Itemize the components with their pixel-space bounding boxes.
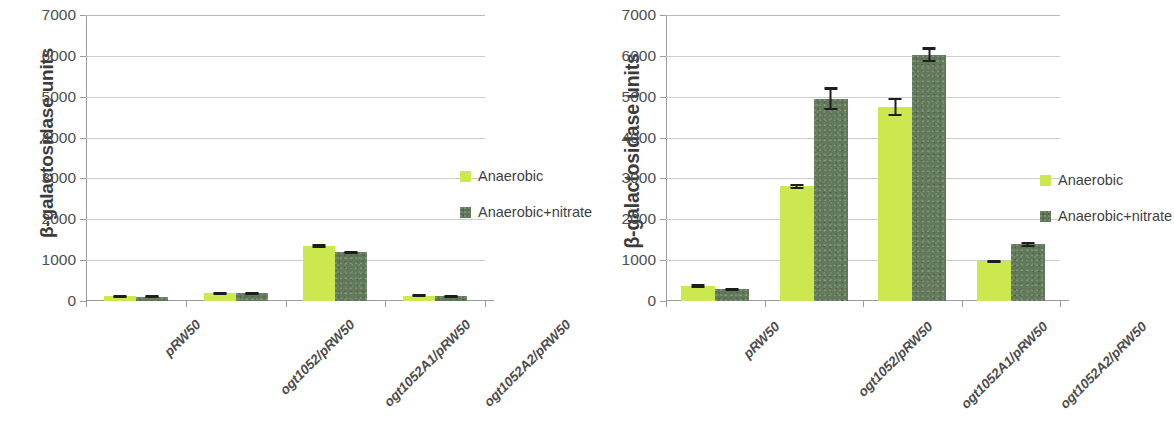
x-axis-tick xyxy=(962,301,963,307)
bar-group xyxy=(765,15,864,301)
error-bar xyxy=(213,292,226,295)
bar-anaerobic xyxy=(303,15,335,301)
error-bar xyxy=(824,87,837,110)
bar-anaerobic-nitrate xyxy=(715,15,749,301)
error-bar-cap-bottom xyxy=(726,289,739,291)
error-bar-cap-bottom xyxy=(923,60,936,63)
y-axis-tick-label: 4000 xyxy=(622,129,656,147)
bar-group xyxy=(385,15,485,301)
error-bar xyxy=(113,295,126,298)
legend-swatch-icon xyxy=(460,207,471,218)
error-bar xyxy=(987,260,1000,264)
y-axis-tick-label: 0 xyxy=(67,292,76,310)
x-axis-tick xyxy=(485,301,486,307)
x-axis-tick xyxy=(186,301,187,307)
legend-swatch-icon xyxy=(460,171,471,182)
x-axis-tick xyxy=(1060,301,1061,307)
error-bar-cap-bottom xyxy=(213,293,226,295)
bar-anaerobic xyxy=(681,15,715,301)
y-axis-tick-label: 6000 xyxy=(622,47,656,65)
error-bar-cap-bottom xyxy=(824,108,837,111)
error-bar xyxy=(145,295,158,298)
x-axis-tick-label: ogt1052A1/pRW50 xyxy=(958,319,1051,412)
legend-label: Anaerobic+nitrate xyxy=(478,204,592,220)
error-bar-cap-bottom xyxy=(790,187,803,189)
bar-group xyxy=(86,15,186,301)
bar-column xyxy=(335,252,367,301)
bar-column xyxy=(912,55,946,301)
x-axis-tick-label: ogt1052A2/pRW50 xyxy=(481,317,574,410)
bar-anaerobic xyxy=(878,15,912,301)
legend-item: Anaerobic+nitrate xyxy=(460,204,592,220)
error-bar-cap-bottom xyxy=(445,296,458,298)
error-bar-cap-bottom xyxy=(113,296,126,298)
legend-a: AnaerobicAnaerobic+nitrate xyxy=(460,168,592,220)
x-axis-tick xyxy=(666,301,667,307)
legend-item: Anaerobic xyxy=(460,168,592,184)
bar-column xyxy=(814,99,848,301)
legend-label: Anaerobic xyxy=(478,168,543,184)
y-axis-tick-label: 2000 xyxy=(42,210,76,228)
x-axis-tick-label: pRW50 xyxy=(161,317,203,359)
error-bar xyxy=(889,98,902,117)
y-axis-tick-label: 2000 xyxy=(622,210,656,228)
error-bar-cap-bottom xyxy=(413,295,426,297)
legend-label: Anaerobic xyxy=(1058,172,1123,188)
bar-anaerobic xyxy=(204,15,236,301)
plot-area-b: 01000200030004000500060007000pRW50ogt105… xyxy=(666,15,1060,301)
y-axis-tick-label: 4000 xyxy=(42,129,76,147)
bar-column xyxy=(681,286,715,301)
error-bar xyxy=(692,284,705,288)
bar-group xyxy=(962,15,1061,301)
error-bar-cap-bottom xyxy=(345,252,358,254)
error-bar-cap-bottom xyxy=(889,114,902,117)
bar-anaerobic xyxy=(977,15,1011,301)
bar-anaerobic-nitrate xyxy=(912,15,946,301)
y-axis-tick-label: 6000 xyxy=(42,47,76,65)
bar-column xyxy=(977,261,1011,301)
x-axis-tick-label: ogt1052/pRW50 xyxy=(277,317,358,398)
bar-column xyxy=(303,246,335,301)
legend-swatch-icon xyxy=(1040,175,1051,186)
x-axis-tick xyxy=(286,301,287,307)
x-axis-tick-label: ogt1052A1/pRW50 xyxy=(381,317,474,410)
legend-label: Anaerobic+nitrate xyxy=(1058,208,1172,224)
y-axis-tick-label: 7000 xyxy=(42,6,76,24)
bar-group xyxy=(666,15,765,301)
bar-anaerobic xyxy=(104,15,136,301)
error-bar-cap-bottom xyxy=(245,293,258,295)
error-bar xyxy=(245,292,258,295)
chart-panel-a: β-galactosidase units 010002000300040005… xyxy=(0,0,587,433)
y-axis-tick-label: 3000 xyxy=(42,169,76,187)
error-bar xyxy=(345,251,358,254)
error-bar xyxy=(445,295,458,298)
bar-anaerobic-nitrate xyxy=(136,15,168,301)
error-bar xyxy=(790,184,803,189)
figure-two-panel-bar-charts: β-galactosidase units 010002000300040005… xyxy=(0,0,1174,433)
error-bar-cap-bottom xyxy=(145,296,158,298)
error-bar xyxy=(923,47,936,62)
error-bar-cap-bottom xyxy=(692,286,705,288)
bar-group xyxy=(286,15,386,301)
chart-panel-b: β-galactosidase units 010002000300040005… xyxy=(587,0,1174,433)
error-bar-cap-bottom xyxy=(313,246,326,248)
y-axis-tick-label: 5000 xyxy=(42,88,76,106)
x-axis-tick xyxy=(385,301,386,307)
bar-anaerobic xyxy=(403,15,435,301)
bar-anaerobic xyxy=(780,15,814,301)
y-axis-tick-label: 1000 xyxy=(622,251,656,269)
x-axis-tick xyxy=(765,301,766,307)
plot-area-a: 01000200030004000500060007000pRW50ogt105… xyxy=(86,15,485,301)
x-axis-tick-label: ogt1052A2/pRW50 xyxy=(1057,319,1150,412)
bar-column xyxy=(878,107,912,301)
error-bar-cap-top xyxy=(790,184,803,186)
bar-anaerobic-nitrate xyxy=(814,15,848,301)
bar-anaerobic-nitrate xyxy=(335,15,367,301)
bar-column xyxy=(780,186,814,301)
bar-anaerobic-nitrate xyxy=(1011,15,1045,301)
y-axis-tick-label: 7000 xyxy=(622,6,656,24)
error-bar xyxy=(1021,242,1034,247)
error-bar-cap-bottom xyxy=(987,261,1000,263)
bar-group xyxy=(186,15,286,301)
bar-group xyxy=(863,15,962,301)
